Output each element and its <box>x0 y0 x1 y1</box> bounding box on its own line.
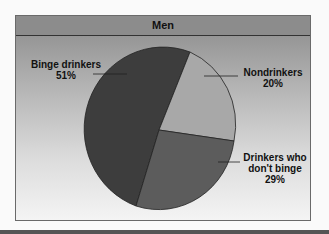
label-binge-drinkers: Binge drinkers 51% <box>28 59 104 81</box>
label-nondrinkers: Nondrinkers 20% <box>240 67 306 89</box>
bottom-rule <box>0 230 329 234</box>
pie-chart <box>0 0 329 234</box>
label-drinkers-no-binge: Drinkers who don't binge 29% <box>240 152 310 185</box>
